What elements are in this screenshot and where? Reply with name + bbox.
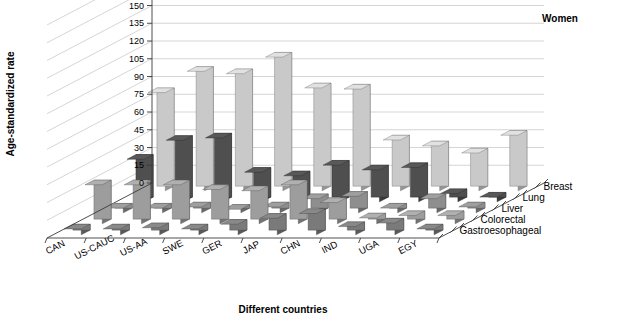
x-tick-mark xyxy=(241,238,243,243)
bar-front xyxy=(332,160,349,197)
legend-item-label: Colorectal xyxy=(481,214,526,225)
chart-title: Women xyxy=(542,13,578,24)
x-category-label: IND xyxy=(320,238,340,255)
x-tick-mark xyxy=(163,238,165,243)
y-tick-label: 90 xyxy=(134,72,144,82)
legend-item-label: Breast xyxy=(544,181,573,192)
y-tick-label: 150 xyxy=(129,1,144,11)
bar-front xyxy=(94,180,111,219)
y-tick-label: 135 xyxy=(129,18,144,28)
bar-chart-3d: 1801651501351201059075604530150CANUS-CAU… xyxy=(0,0,625,321)
x-tick-mark xyxy=(280,238,282,243)
x-tick-mark xyxy=(202,238,204,243)
x-tick-mark xyxy=(398,238,400,243)
bar-front xyxy=(431,141,448,186)
x-category-label: JAP xyxy=(241,238,262,256)
x-category-label: UGA xyxy=(357,237,381,256)
x-category-label: CHN xyxy=(279,237,302,256)
y-tick-label: 60 xyxy=(134,107,144,117)
y-axis-title: Age-standardized rate xyxy=(5,51,16,156)
x-tick-mark xyxy=(319,238,321,243)
bar-front xyxy=(353,84,370,186)
y-tick-label: 105 xyxy=(129,54,144,64)
y-tick-label: 75 xyxy=(134,89,144,99)
legend-item-label: Liver xyxy=(502,203,524,214)
legend-item-label: Gastroesophageal xyxy=(460,225,542,236)
x-tick-mark xyxy=(123,238,125,243)
x-tick-mark xyxy=(84,238,86,243)
x-category-label: EGY xyxy=(396,237,419,256)
x-category-label: US-AA xyxy=(118,235,149,258)
x-category-label: CAN xyxy=(44,237,67,256)
y-tick-label: 120 xyxy=(129,36,144,46)
bar-front xyxy=(157,88,174,186)
x-axis-title: Different countries xyxy=(239,304,328,315)
x-tick-mark xyxy=(437,238,439,243)
bar-front xyxy=(235,69,252,186)
bar-front xyxy=(314,83,331,186)
bar-front xyxy=(251,186,268,219)
x-tick-mark xyxy=(45,238,47,243)
legend-item-label: Lung xyxy=(523,192,545,203)
chart-container: 1801651501351201059075604530150CANUS-CAU… xyxy=(0,0,625,321)
x-tick-mark xyxy=(359,238,361,243)
bar-front xyxy=(410,163,427,197)
y-tick-label: 30 xyxy=(134,143,144,153)
x-category-label: GER xyxy=(200,237,223,256)
y-tick-label: 15 xyxy=(134,160,144,170)
y-tick-label: 45 xyxy=(134,125,144,135)
bar-front xyxy=(196,67,213,187)
bar-front xyxy=(392,135,409,186)
bar-front xyxy=(510,131,527,187)
bar-front xyxy=(212,185,229,219)
bar-front xyxy=(471,148,488,186)
y-tick-label: 0 xyxy=(139,178,144,188)
bar-front xyxy=(172,180,189,219)
bar-front xyxy=(275,52,292,186)
